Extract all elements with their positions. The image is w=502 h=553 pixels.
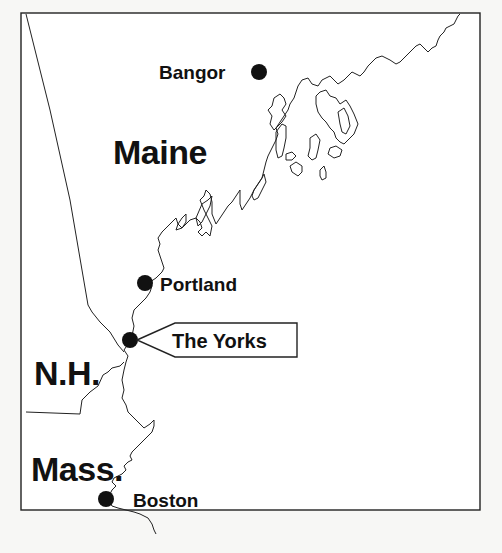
state-label-nh: N.H. — [34, 356, 100, 390]
city-label-the-yorks[interactable]: The Yorks — [172, 331, 267, 351]
city-label-boston: Boston — [133, 491, 198, 510]
map-frame — [21, 13, 480, 510]
city-dot-boston[interactable] — [98, 491, 114, 507]
state-label-maine: Maine — [113, 135, 207, 169]
city-dot-bangor[interactable] — [251, 64, 267, 80]
city-label-bangor: Bangor — [159, 63, 226, 82]
city-label-portland: Portland — [160, 275, 237, 294]
city-dot-portland[interactable] — [137, 275, 153, 291]
state-label-mass: Mass. — [31, 452, 123, 486]
